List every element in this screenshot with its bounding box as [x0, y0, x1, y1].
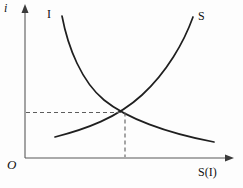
x-axis-arrow-icon: [225, 155, 234, 162]
diagram-canvas: [0, 0, 243, 188]
y-axis-arrow-icon: [22, 4, 29, 13]
saving-curve: [55, 17, 193, 137]
investment-curve-label: I: [47, 8, 51, 20]
origin-label: O: [7, 158, 16, 171]
investment-curve: [62, 16, 214, 142]
x-axis-label: S(I): [198, 166, 217, 178]
y-axis-label: i: [4, 2, 7, 14]
saving-curve-label: S: [198, 10, 205, 22]
saving-investment-diagram: i O S(I) I S: [0, 0, 243, 188]
